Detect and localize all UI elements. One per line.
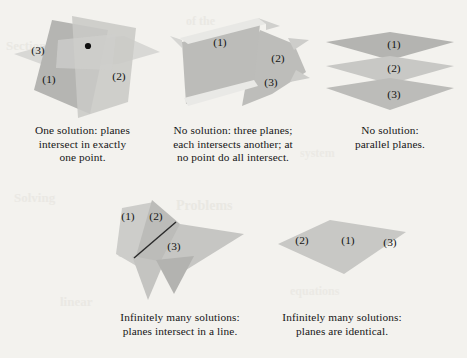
caption-infinite-solutions-identical: Infinitely many solutions: planes are id… (266, 311, 418, 338)
caption-line: No solution: (325, 124, 455, 138)
plane-label-3: (3) (387, 88, 400, 101)
caption-no-solution-parallel: No solution: parallel planes. (325, 124, 455, 151)
caption-line: no point do all intersect. (157, 151, 309, 165)
figure-infinite-solutions-identical-graphic: (2) (1) (3) (274, 216, 410, 290)
figure-page: Section of the system Solving Problems l… (0, 0, 467, 358)
caption-line: Infinitely many solutions: (104, 311, 256, 325)
caption-line: No solution: three planes; (157, 124, 309, 138)
caption-line: each intersects another; at (157, 138, 309, 152)
figure-infinite-solutions-line-graphic: (1) (2) (3) (108, 198, 248, 302)
bleed-text: Solving (14, 190, 55, 206)
plane-label-3: (3) (31, 44, 44, 57)
intersection-point-dot (85, 43, 91, 49)
plane-label-1: (1) (213, 36, 226, 49)
caption-one-solution: One solution: planes intersect in exactl… (10, 124, 155, 165)
plane-label-2: (2) (271, 52, 284, 65)
figure-no-solution-prism-graphic: (1) (2) (3) (168, 10, 310, 120)
plane-label-2: (2) (387, 62, 400, 75)
caption-line: One solution: planes (10, 124, 155, 138)
plane-label-2: (2) (149, 210, 162, 223)
caption-infinite-solutions-line: Infinitely many solutions: planes inters… (104, 311, 256, 338)
plane-label-1: (1) (387, 38, 400, 51)
plane-overlap-shade (56, 34, 116, 70)
caption-no-solution-prism: No solution: three planes; each intersec… (157, 124, 309, 165)
figure-one-solution-point-graphic: (3) (1) (2) (12, 6, 162, 121)
plane-label-3: (3) (167, 240, 180, 253)
figure-no-solution-parallel-graphic: (1) (2) (3) (322, 30, 458, 120)
caption-line: planes are identical. (266, 325, 418, 339)
plane-lower-wedge-b (156, 256, 194, 294)
plane-label-1: (1) (121, 210, 134, 223)
plane-1-winglet-left (170, 36, 182, 48)
plane-label-3: (3) (264, 76, 277, 89)
caption-line: parallel planes. (325, 138, 455, 152)
caption-line: one point. (10, 151, 155, 165)
caption-line: Infinitely many solutions: (266, 311, 418, 325)
bleed-text: linear (60, 294, 93, 310)
plane-label-2: (2) (295, 234, 308, 247)
plane-label-1: (1) (42, 73, 55, 86)
plane-label-2: (2) (112, 70, 125, 83)
caption-line: intersect in exactly (10, 138, 155, 152)
plane-label-3: (3) (383, 236, 396, 249)
plane-label-1: (1) (341, 234, 354, 247)
caption-line: planes intersect in a line. (104, 325, 256, 339)
